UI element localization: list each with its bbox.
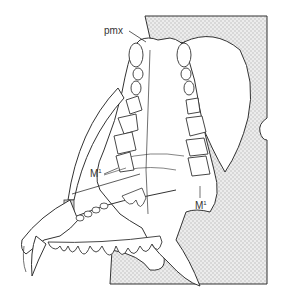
label-m1-left: M1: [90, 168, 102, 179]
canine-tooth: [32, 236, 47, 276]
pmx-leader-line: [129, 31, 146, 42]
lower-tooth-row: [48, 236, 162, 255]
label-m1-right-sup: 1: [203, 200, 206, 206]
skull-illustration: [0, 0, 283, 305]
label-m1-right: M1: [195, 200, 207, 211]
label-pmx: pmx: [104, 26, 123, 36]
label-pmx-text: pmx: [104, 25, 123, 36]
label-m1-left-sup: 1: [98, 168, 101, 174]
